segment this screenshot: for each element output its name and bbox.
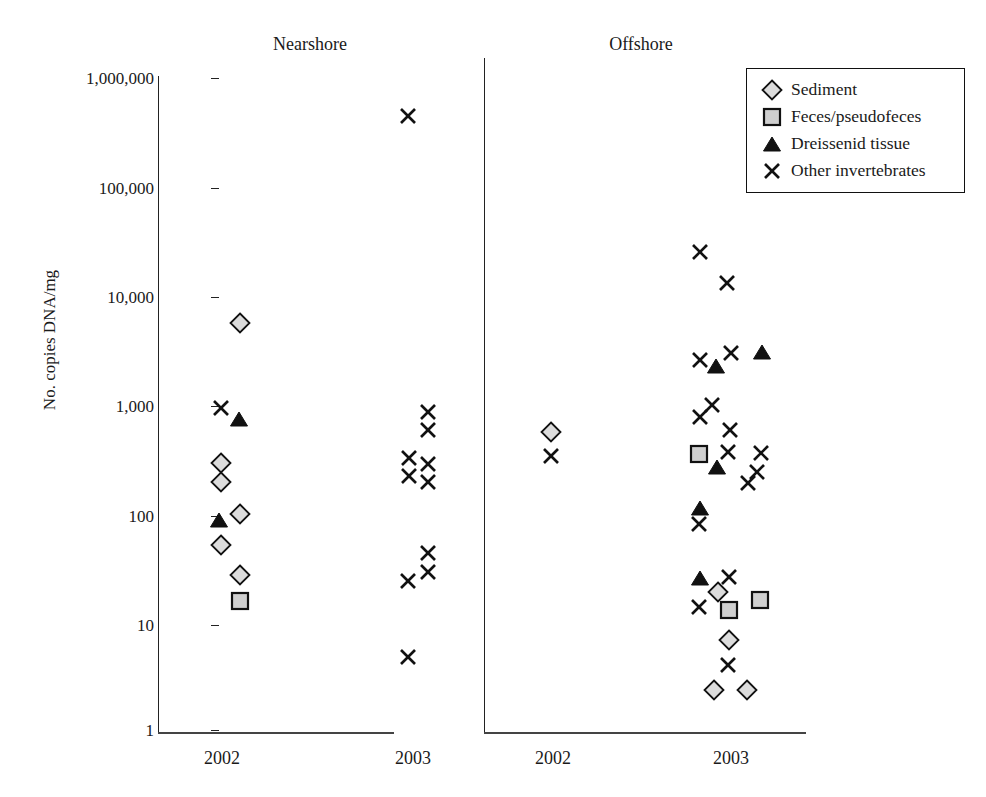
y-tick-mark <box>211 730 219 731</box>
legend-item-label: Other invertebrates <box>787 160 926 181</box>
y-tick-label: 1 <box>62 722 154 739</box>
legend-item-label: Dreissenid tissue <box>787 133 910 154</box>
data-point-diamond <box>210 471 232 493</box>
nearshore-y-axis <box>158 76 159 733</box>
data-point-triangle <box>229 410 249 428</box>
data-point-diamond <box>540 421 562 443</box>
data-point-triangle <box>209 511 229 529</box>
data-point-x <box>418 562 438 582</box>
nearshore-x-axis <box>158 732 394 734</box>
data-point-x <box>541 446 561 466</box>
data-point-diamond <box>229 312 251 334</box>
legend-item-x[interactable]: Other invertebrates <box>757 157 952 184</box>
data-point-diamond <box>229 503 251 525</box>
y-tick-label: 1,000,000 <box>62 70 154 87</box>
scatter-plot-figure: No. copies DNA/mg 1,000,000100,00010,000… <box>0 0 986 797</box>
data-point-diamond <box>703 679 725 701</box>
xtick-offshore-2002: 2002 <box>535 748 571 769</box>
data-point-triangle <box>752 343 772 361</box>
data-point-x <box>399 466 419 486</box>
data-point-x <box>418 472 438 492</box>
data-point-square <box>230 591 250 611</box>
data-point-triangle <box>706 357 726 375</box>
data-point-diamond <box>736 679 758 701</box>
data-point-x <box>418 454 438 474</box>
data-point-x <box>398 647 418 667</box>
y-axis-label: No. copies DNA/mg <box>40 230 60 450</box>
offshore-x-axis <box>484 732 806 734</box>
xtick-nearshore-2002: 2002 <box>204 748 240 769</box>
legend-item-label: Sediment <box>787 79 857 100</box>
triangle-icon <box>757 135 787 153</box>
x-icon <box>757 161 787 181</box>
legend-item-square[interactable]: Feces/pseudofeces <box>757 103 952 130</box>
data-point-x <box>211 398 231 418</box>
data-point-diamond <box>229 564 251 586</box>
panel-title-offshore: Offshore <box>609 34 673 55</box>
legend-item-label: Feces/pseudofeces <box>787 106 921 127</box>
y-tick-label: 100,000 <box>62 180 154 197</box>
xtick-nearshore-2003: 2003 <box>395 748 431 769</box>
diamond-icon <box>757 79 787 101</box>
y-tick-mark <box>211 297 219 298</box>
data-point-x <box>418 543 438 563</box>
y-tick-label: 10,000 <box>62 289 154 306</box>
data-point-diamond <box>210 534 232 556</box>
data-point-x <box>689 514 709 534</box>
data-point-x <box>690 407 710 427</box>
legend: SedimentFeces/pseudofecesDreissenid tiss… <box>746 68 965 193</box>
y-tick-label: 1,000 <box>62 398 154 415</box>
data-point-x <box>690 242 710 262</box>
legend-item-diamond[interactable]: Sediment <box>757 76 952 103</box>
xtick-offshore-2003: 2003 <box>713 748 749 769</box>
data-point-x <box>738 473 758 493</box>
data-point-square <box>689 444 709 464</box>
data-point-x <box>751 443 771 463</box>
data-point-square <box>750 590 770 610</box>
y-axis-ticks: 1,000,000100,00010,0001,000100101 <box>60 0 154 797</box>
data-point-x <box>398 571 418 591</box>
y-tick-mark <box>211 625 219 626</box>
y-tick-mark <box>211 188 219 189</box>
data-point-diamond <box>718 629 740 651</box>
y-tick-label: 100 <box>62 508 154 525</box>
data-point-x <box>418 420 438 440</box>
y-tick-label: 10 <box>62 617 154 634</box>
data-point-x <box>418 402 438 422</box>
data-point-x <box>399 448 419 468</box>
y-tick-mark <box>211 78 219 79</box>
data-point-x <box>398 106 418 126</box>
offshore-y-axis <box>484 58 485 733</box>
panel-title-nearshore: Nearshore <box>273 34 347 55</box>
data-point-x <box>689 597 709 617</box>
data-point-x <box>717 273 737 293</box>
data-point-x <box>720 420 740 440</box>
square-icon <box>757 107 787 127</box>
data-point-x <box>718 655 738 675</box>
data-point-square <box>719 600 739 620</box>
data-point-triangle <box>707 458 727 476</box>
legend-item-triangle[interactable]: Dreissenid tissue <box>757 130 952 157</box>
